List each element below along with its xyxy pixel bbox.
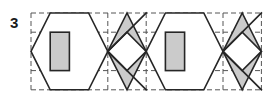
figure-container: 3 <box>0 0 263 105</box>
motif-3-hexagon-with-rectangle-inner-fill <box>165 32 184 70</box>
motif-2-rhombus-with-inner-rhombus-inner-fill <box>108 32 146 70</box>
motif-4-rhombus-with-inner-rhombus-inner-fill <box>223 32 261 70</box>
motif-1-hexagon-with-rectangle-inner-fill <box>50 32 69 70</box>
pattern-diagram <box>0 0 263 105</box>
